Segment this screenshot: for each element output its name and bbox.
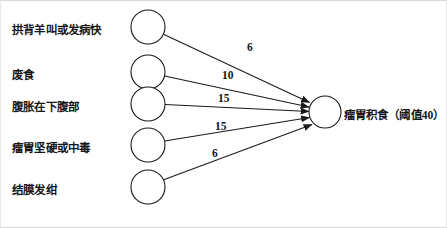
output-node-label: 瘤胃积食（阈值40） [344,106,445,122]
edge-weight-4: 15 [215,120,227,132]
edge-line-4 [165,118,310,142]
input-node-circle-4[interactable] [131,128,165,162]
edge-line-1 [164,35,310,103]
perceptron-diagram: 拱背羊叫或发病快 废食 腹胀在下腹部 瘤胃坚硬或中毒 结膜发绀 6 10 15 … [0,0,447,228]
input-label-3: 腹胀在下腹部 [12,98,79,114]
input-label-2: 废食 [12,66,34,82]
edge-weight-5: 6 [212,147,218,159]
edge-weight-3: 15 [218,92,230,104]
input-node-circle-1[interactable] [131,10,165,44]
input-node-circle-3[interactable] [131,87,165,121]
edge-weight-1: 6 [247,41,253,53]
edge-weight-2: 10 [222,69,234,81]
input-node-circle-2[interactable] [131,55,165,89]
edge-line-5 [163,125,312,181]
input-node-circle-5[interactable] [131,170,165,204]
edge-line-3 [165,105,309,112]
input-label-5: 结膜发绀 [12,181,57,197]
input-label-4: 瘤胃坚硬或中毒 [12,139,90,155]
input-label-1: 拱背羊叫或发病快 [12,21,102,37]
edge-line-2 [165,76,310,107]
output-node-circle[interactable] [309,96,341,128]
